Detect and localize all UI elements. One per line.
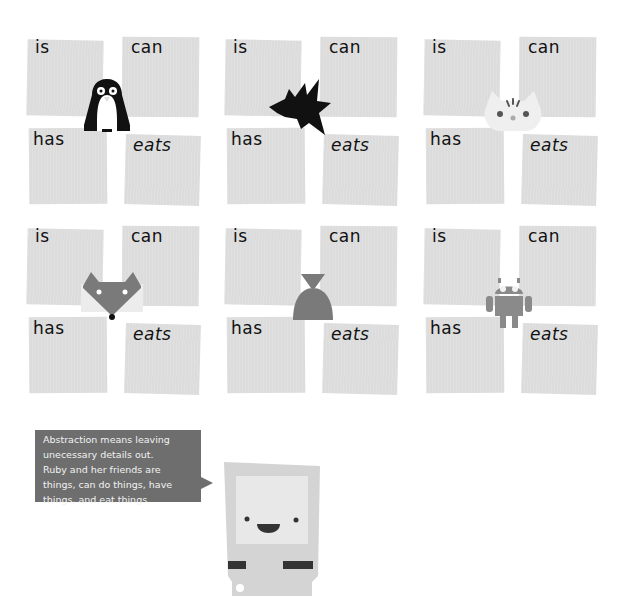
label-has: has [430,318,462,338]
label-has: has [231,129,263,149]
label-eats: eats [331,135,369,155]
panel-bird: is can has eats [225,37,410,212]
label-eats: eats [133,324,171,344]
penguin-icon [80,77,134,135]
ruby-computer-character [222,458,322,600]
label-has: has [231,318,263,338]
label-is: is [432,226,447,246]
label-eats: eats [530,324,568,344]
label-is: is [233,226,248,246]
label-is: is [35,226,50,246]
bird-icon [267,77,337,137]
label-eats: eats [133,135,171,155]
bubble-line-3: Ruby and her friends are [43,462,193,477]
label-can: can [528,226,560,246]
speech-bubble-tail [193,473,213,493]
bubble-line-2: unecessary details out. [43,447,193,462]
label-has: has [430,129,462,149]
label-eats: eats [331,324,369,344]
bubble-line-5: things, and eat things. [43,492,193,507]
bubble-line-1: Abstraction means leaving [43,432,193,447]
cat-icon [480,87,546,133]
label-can: can [131,37,163,57]
panel-android: is can has eats [424,226,609,401]
label-can: can [329,37,361,57]
label-can: can [528,37,560,57]
label-eats: eats [530,135,568,155]
panel-bell: is can has eats [225,226,410,401]
label-is: is [233,37,248,57]
panel-fox: is can has eats [27,226,212,401]
bell-icon [291,274,335,322]
panel-cat: is can has eats [424,37,609,212]
label-is: is [432,37,447,57]
speech-bubble: Abstraction means leaving unecessary det… [35,430,201,502]
fox-icon [81,270,143,322]
label-is: is [35,37,50,57]
label-can: can [329,226,361,246]
label-can: can [131,226,163,246]
label-has: has [33,318,65,338]
android-robot-icon [486,278,532,330]
label-has: has [33,129,65,149]
bubble-line-4: things, can do things, have [43,477,193,492]
panel-penguin: is can has eats [27,37,212,212]
